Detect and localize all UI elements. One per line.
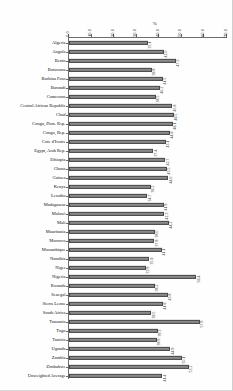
y-tick (66, 250, 69, 251)
bar-row: Niger33.9 (68, 263, 226, 272)
bar (69, 157, 165, 161)
category-label: Uganda (52, 346, 66, 351)
category-label: Guinea (53, 175, 66, 180)
bar (69, 40, 148, 44)
y-tick (66, 331, 69, 332)
category-label: Central African Republic (20, 103, 65, 108)
category-label: Unweighted Average (28, 373, 66, 378)
bar-row: Rwanda38.2 (68, 281, 226, 290)
category-label: Niger (55, 265, 65, 270)
category-label: Algeria (52, 40, 66, 45)
y-tick (66, 277, 69, 278)
category-label: Malawi (52, 211, 66, 216)
category-label: Botswana (48, 67, 66, 72)
bar (69, 202, 164, 206)
bar-row: South Africa36.5 (68, 308, 226, 317)
bar-row: Malawi42.3 (68, 209, 226, 218)
bar-row: Mali44.2 (68, 218, 226, 227)
y-tick (66, 70, 69, 71)
y-tick (66, 313, 69, 314)
bar (69, 148, 153, 152)
category-label: Cote d'Ivoire (42, 139, 65, 144)
y-tick (66, 79, 69, 80)
y-tick (66, 52, 69, 53)
y-tick (66, 376, 69, 377)
y-tick (66, 169, 69, 170)
bar-row: Congo, Rep.44.6 (68, 128, 226, 137)
bar (69, 76, 163, 80)
category-label: Kenya (54, 184, 66, 189)
bar-rows: Algeria35.1Angola42.0Benin47.3Botswana36… (68, 38, 226, 380)
x-tick-label: 70.0 (223, 29, 228, 37)
bar (69, 58, 176, 62)
bar (69, 301, 163, 305)
bar-row: Nigeria56.4 (68, 272, 226, 281)
y-tick (66, 133, 69, 134)
category-label: Madagascar (44, 202, 66, 207)
y-tick (66, 304, 69, 305)
category-label: Burkina Faso (41, 76, 65, 81)
plot-area: % 0.010.020.030.040.050.060.070.0 Algeri… (68, 38, 226, 380)
category-label: Congo, Dem. Rep. (32, 121, 66, 126)
bar-row: Congo, Dem. Rep.46.1 (68, 119, 226, 128)
y-tick (66, 142, 69, 143)
bar-row: Botswana36.8 (68, 65, 226, 74)
y-tick (66, 295, 69, 296)
bar-row: Burkina Faso41.5 (68, 74, 226, 83)
bar (69, 193, 147, 197)
x-tick-label: 60.0 (200, 29, 205, 37)
bar (69, 256, 149, 260)
y-tick (66, 214, 69, 215)
bar-row: Ghana43.5 (68, 164, 226, 173)
category-label: Lesotho (51, 193, 66, 198)
category-label: Zimbabwe (46, 364, 65, 369)
bar (69, 265, 146, 269)
bar (69, 85, 160, 89)
bar-row: Kenya36.2 (68, 182, 226, 191)
bar (69, 319, 200, 323)
bar-row: Cote d'Ivoire43.1 (68, 137, 226, 146)
bar (69, 247, 162, 251)
bar (69, 238, 154, 242)
bar-row: Tanzania57.9 (68, 317, 226, 326)
bar-row: Benin47.3 (68, 56, 226, 65)
bar-row: Burundi40.2 (68, 83, 226, 92)
category-label: Mauritania (46, 229, 66, 234)
bar (69, 121, 173, 125)
y-tick (66, 61, 69, 62)
x-tick-label: 20.0 (110, 29, 115, 37)
bar (69, 220, 169, 224)
bar (69, 328, 158, 332)
category-label: Burundi (51, 85, 66, 90)
chart-figure: % 0.010.020.030.040.050.060.070.0 Algeri… (0, 0, 233, 391)
y-tick (66, 178, 69, 179)
bar (69, 292, 168, 296)
bar (69, 355, 182, 359)
bar-row: Namibia35.6 (68, 254, 226, 263)
bar-row: Zambia50.1 (68, 353, 226, 362)
category-label: Angola (52, 49, 65, 54)
x-tick-label: 0.0 (65, 31, 70, 37)
category-label: South Africa (43, 310, 66, 315)
category-label: Zambia (52, 355, 66, 360)
category-label: Tanzania (49, 319, 65, 324)
bar-row: Tunisia38.9 (68, 335, 226, 344)
bar-row: Madagascar41.9 (68, 200, 226, 209)
bar (69, 229, 155, 233)
category-label: Ethiopia (50, 157, 65, 162)
x-tick-label: 40.0 (155, 29, 160, 37)
bar (69, 274, 196, 278)
y-tick (66, 286, 69, 287)
category-label: Benin (55, 58, 66, 63)
bar-row: Senegal43.8 (68, 290, 226, 299)
y-tick (66, 106, 69, 107)
x-tick-label: 30.0 (132, 29, 137, 37)
bar-row: Togo39.3 (68, 326, 226, 335)
bar (69, 283, 155, 287)
category-label: Morocco (49, 238, 65, 243)
x-axis-label: % (153, 21, 157, 26)
category-label: Egypt, Arab Rep. (34, 148, 65, 153)
bar (69, 175, 168, 179)
y-tick (66, 241, 69, 242)
category-label: Senegal (51, 292, 65, 297)
